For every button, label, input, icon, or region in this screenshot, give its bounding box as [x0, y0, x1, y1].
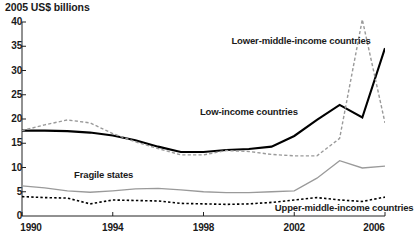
y-tick-label: 40 — [4, 17, 22, 27]
x-tick-label: 2006 — [363, 223, 384, 233]
y-tick-label: 20 — [4, 114, 22, 124]
y-tick-label: 10 — [4, 163, 22, 173]
x-tick-label: 1998 — [193, 223, 214, 233]
series-label: Lower-middle-income countries — [231, 36, 370, 46]
x-tick-label: 2002 — [284, 223, 305, 233]
y-tick-label: 25 — [4, 90, 22, 100]
y-tick-label: 30 — [4, 66, 22, 76]
axes — [22, 22, 385, 216]
y-tick-label: 15 — [4, 138, 22, 148]
series-label: Upper-middle-income countries — [275, 203, 414, 213]
x-tick-label: 1990 — [20, 223, 41, 233]
x-tick-label: 1994 — [102, 223, 123, 233]
series-label: Low-income countries — [200, 107, 298, 117]
y-tick-label: 5 — [4, 187, 22, 197]
series-line — [22, 48, 385, 152]
y-tick-label: 0 — [4, 211, 22, 221]
y-axis-tick-labels: 4035302520151050 — [0, 0, 22, 241]
y-tick-label: 35 — [4, 41, 22, 51]
series-label: Fragile states — [74, 170, 133, 180]
